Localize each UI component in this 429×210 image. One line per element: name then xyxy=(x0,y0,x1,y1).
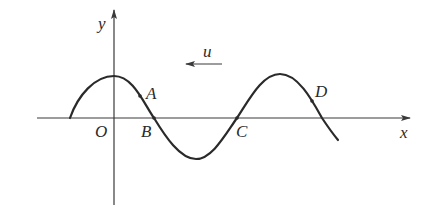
y-axis-label: y xyxy=(96,14,106,33)
point-d-marker xyxy=(310,99,314,103)
origin-label: O xyxy=(95,122,107,141)
point-d-label: D xyxy=(314,82,328,101)
x-axis-label: x xyxy=(399,123,408,142)
point-b-marker xyxy=(152,116,156,120)
point-a-marker xyxy=(138,94,142,98)
point-b-label: B xyxy=(141,122,152,141)
wave-curve xyxy=(70,74,338,159)
point-c-marker xyxy=(235,116,239,120)
wave-diagram: y x O u A B C D xyxy=(0,0,429,210)
point-c-label: C xyxy=(236,122,248,141)
point-a-label: A xyxy=(145,84,157,103)
velocity-label: u xyxy=(203,42,212,61)
